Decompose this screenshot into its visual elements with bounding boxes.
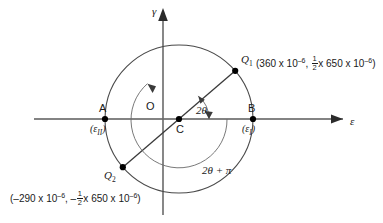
q1-coord-exp1: –6 (298, 57, 306, 64)
figure-page: γ ε A (εII) B (εI) O C Q1 (360 x 10–6, 1… (0, 0, 383, 223)
point-a-paren-close: ) (102, 123, 105, 134)
point-q1-coordinates: (360 x 10–6, 12x 650 x 10–6) (256, 55, 376, 72)
q2-coord-tail: x 650 x 10 (83, 193, 129, 204)
point-q1-marker (232, 68, 238, 74)
two-theta-label: 2θ (196, 105, 207, 116)
two-theta-plus-pi-label: 2θ + π (202, 165, 231, 176)
point-c-marker (176, 116, 182, 122)
two-theta-plus-pi-arrowhead (147, 84, 156, 93)
point-b-marker (250, 116, 256, 122)
gamma-axis-label: γ (152, 6, 156, 17)
point-q1-letter: Q (241, 53, 249, 65)
point-o-label: O (146, 101, 155, 112)
point-q1-subscript: 1 (249, 59, 253, 68)
point-b-strain-label: (εI) (242, 124, 255, 137)
point-q2-label: Q2 (104, 170, 116, 184)
point-q2-coordinates: (–290 x 10–6, –12x 650 x 10–6) (10, 190, 141, 207)
epsilon-axis-label: ε (350, 116, 354, 127)
q2-coord-close: ) (137, 193, 140, 204)
q1-coord-tail: x 650 x 10 (318, 58, 364, 69)
point-b-label: B (248, 103, 255, 114)
q1-frac-denominator: 2 (312, 64, 318, 72)
q1-coord-close: ) (372, 58, 375, 69)
q1-coord-half-fraction: 12 (312, 55, 318, 72)
q2-coord-mid: , – (65, 193, 76, 204)
epsilon-axis-arrowhead (331, 114, 343, 123)
point-a-marker (102, 116, 108, 122)
q1-coord-open: (360 x 10 (256, 58, 298, 69)
q1-coord-mid: , (306, 58, 312, 69)
point-a-strain-label: (εII) (90, 124, 106, 137)
point-q2-marker (120, 164, 126, 170)
point-c-label: C (176, 124, 184, 135)
q2-frac-denominator: 2 (77, 199, 83, 207)
point-q1-label: Q1 (241, 54, 253, 68)
q2-coord-exp1: –6 (57, 192, 65, 199)
q2-coord-half-fraction: 12 (77, 190, 83, 207)
point-b-paren-close: ) (252, 123, 255, 134)
point-q2-letter: Q (104, 169, 112, 181)
q2-coord-open: (–290 x 10 (10, 193, 57, 204)
point-q2-subscript: 2 (112, 175, 116, 184)
gamma-axis-arrowhead (158, 8, 168, 21)
point-a-label: A (99, 103, 106, 114)
